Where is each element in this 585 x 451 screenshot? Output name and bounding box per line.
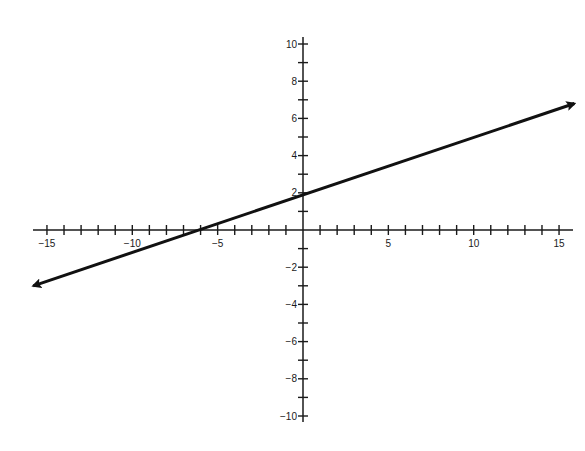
y-tick-label: 4 [291,150,297,161]
y-tick-label: −8 [286,373,298,384]
y-tick-label: −2 [286,262,298,273]
y-tick-label: 6 [291,113,297,124]
y-tick-label: 8 [291,76,297,87]
x-axis-tick-labels: −15−10−551015 [38,238,565,249]
y-tick-label: −4 [286,299,298,310]
plotted-line [33,104,574,286]
y-tick-label: −6 [286,336,298,347]
y-tick-label: 10 [286,39,298,50]
x-tick-label: 10 [468,238,480,249]
coordinate-plane: −15−10−551015 108642−2−4−6−8−10 [0,0,585,451]
x-tick-label: −5 [212,238,224,249]
x-tick-label: 5 [386,238,392,249]
series-line [33,104,574,286]
y-tick-label: −10 [280,411,297,422]
x-tick-label: −15 [38,238,55,249]
x-tick-label: −10 [124,238,141,249]
x-tick-label: 15 [553,238,565,249]
